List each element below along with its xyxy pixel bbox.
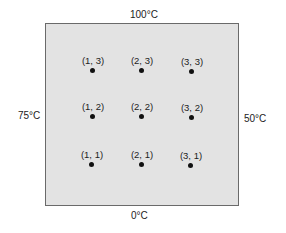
- grid-node: (3, 3): [172, 56, 212, 80]
- grid-node: (2, 1): [122, 149, 162, 173]
- node-dot-icon: [189, 69, 194, 74]
- node-dot-icon: [90, 68, 95, 73]
- grid-node: (3, 2): [172, 102, 212, 126]
- node-label: (1, 3): [73, 55, 113, 66]
- node-dot-icon: [89, 162, 94, 167]
- node-label: (2, 2): [122, 101, 162, 112]
- right-boundary-temperature: 50°C: [244, 113, 266, 124]
- node-dot-icon: [188, 163, 193, 168]
- grid-node: (1, 1): [72, 149, 112, 173]
- node-dot-icon: [139, 114, 144, 119]
- node-dot-icon: [189, 115, 194, 120]
- node-label: (1, 2): [73, 101, 113, 112]
- top-boundary-temperature: 100°C: [130, 9, 158, 20]
- node-label: (1, 1): [72, 149, 112, 160]
- node-label: (2, 3): [122, 55, 162, 66]
- node-label: (3, 1): [171, 150, 211, 161]
- node-label: (3, 2): [172, 102, 212, 113]
- grid-node: (1, 3): [73, 55, 113, 79]
- grid-node: (2, 3): [122, 55, 162, 79]
- node-label: (2, 1): [122, 149, 162, 160]
- node-label: (3, 3): [172, 56, 212, 67]
- grid-node: (3, 1): [171, 150, 211, 174]
- grid-node: (1, 2): [73, 101, 113, 125]
- node-dot-icon: [139, 68, 144, 73]
- node-dot-icon: [90, 114, 95, 119]
- grid-node: (2, 2): [122, 101, 162, 125]
- bottom-boundary-temperature: 0°C: [131, 210, 148, 221]
- node-dot-icon: [139, 162, 144, 167]
- left-boundary-temperature: 75°C: [18, 110, 40, 121]
